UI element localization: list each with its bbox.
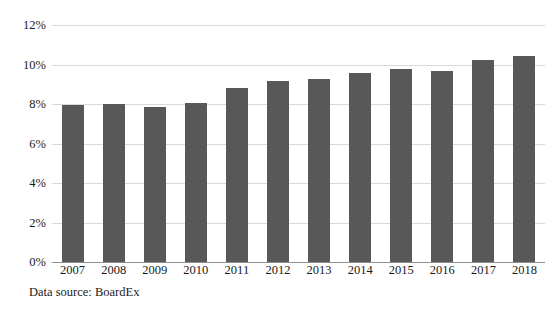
x-tick-label: 2017 (460, 264, 506, 277)
bar (513, 56, 535, 262)
y-tick-label: 6% (29, 138, 46, 151)
x-axis: 2007200820092010201120122013201420152016… (52, 264, 545, 284)
x-tick-label: 2008 (91, 264, 137, 277)
x-tick-label: 2010 (173, 264, 219, 277)
bar (472, 60, 494, 262)
y-tick-label: 8% (29, 98, 46, 111)
bar (62, 105, 84, 262)
x-tick-label: 2009 (132, 264, 178, 277)
bar (390, 69, 412, 262)
x-tick-label: 2011 (214, 264, 260, 277)
bar (349, 73, 371, 262)
x-tick-label: 2013 (296, 264, 342, 277)
x-tick-label: 2012 (255, 264, 301, 277)
bar (308, 79, 330, 262)
chart-caption: Data source: BoardEx (29, 286, 139, 299)
bar-chart-figure: 0%2%4%6%8%10%12% 20072008200920102011201… (0, 0, 559, 309)
bar (267, 81, 289, 262)
y-tick-label: 10% (23, 59, 46, 72)
x-tick-label: 2016 (419, 264, 465, 277)
x-tick-label: 2007 (50, 264, 96, 277)
y-tick-label: 0% (29, 256, 46, 269)
x-tick-label: 2018 (501, 264, 547, 277)
bar (103, 104, 125, 262)
y-axis: 0%2%4%6%8%10%12% (0, 25, 52, 262)
x-tick-label: 2015 (378, 264, 424, 277)
bar (226, 88, 248, 262)
bars-layer (52, 25, 545, 262)
bar (144, 107, 166, 262)
x-tick-label: 2014 (337, 264, 383, 277)
y-tick-label: 4% (29, 177, 46, 190)
y-tick-label: 12% (23, 19, 46, 32)
y-tick-label: 2% (29, 217, 46, 230)
bar (185, 103, 207, 262)
bar (431, 71, 453, 262)
